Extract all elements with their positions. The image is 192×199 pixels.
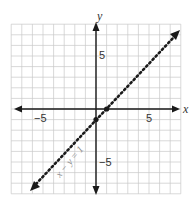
point-1-0 [104,106,109,111]
x-axis-left-arrow-icon [14,106,22,113]
x-axis-label: x [182,102,189,116]
y-tick-label-neg5: −5 [99,156,112,168]
x-tick-label-pos5: 5 [146,112,152,124]
coordinate-plane: y x −5 5 5 −5 x − y = 1 [0,0,192,199]
point-0-neg1 [93,117,98,122]
y-axis-label: y [96,9,103,23]
x-axis-right-arrow-icon [172,106,180,113]
y-tick-label-pos5: 5 [99,49,105,61]
y-axis-up-arrow-icon [93,22,100,31]
line-lower-arrow-icon [30,181,40,191]
x-tick-label-neg5: −5 [34,112,47,124]
